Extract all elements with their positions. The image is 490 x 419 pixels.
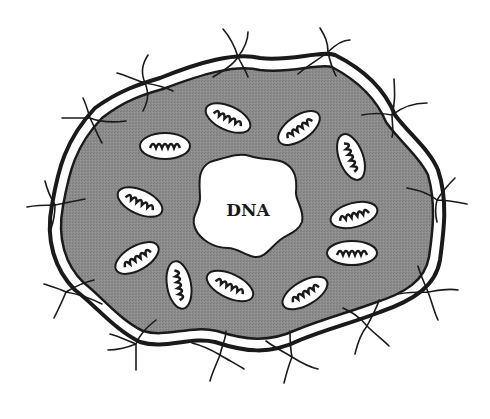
mitochondrion bbox=[140, 133, 190, 159]
mitochondrion bbox=[327, 241, 377, 265]
cell-diagram: DNA bbox=[0, 0, 490, 419]
dna-label: DNA bbox=[226, 200, 270, 220]
